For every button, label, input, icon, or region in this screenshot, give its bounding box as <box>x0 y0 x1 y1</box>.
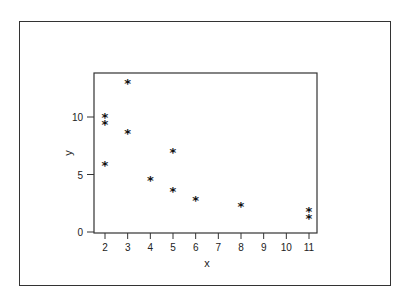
x-tick-label: 3 <box>125 242 131 253</box>
x-tick-label: 10 <box>281 242 293 253</box>
y-tick-label: 10 <box>72 112 84 123</box>
y-axis: 0510 <box>72 112 94 238</box>
y-tick-label: 5 <box>77 170 83 181</box>
data-point-asterisk-icon: * <box>124 126 131 141</box>
data-point-asterisk-icon: * <box>102 117 109 132</box>
x-axis: 234567891011 <box>102 233 314 253</box>
data-point-asterisk-icon: * <box>147 173 154 188</box>
x-tick-label: 4 <box>148 242 154 253</box>
plot-area <box>94 73 317 233</box>
data-point-asterisk-icon: * <box>102 158 109 173</box>
x-tick-label: 11 <box>304 242 315 253</box>
x-tick-label: 9 <box>261 242 267 253</box>
data-point-asterisk-icon: * <box>170 184 177 199</box>
data-point-asterisk-icon: * <box>192 193 199 208</box>
x-tick-label: 5 <box>170 242 176 253</box>
data-point-asterisk-icon: * <box>238 199 245 214</box>
y-axis-label: y <box>62 150 74 156</box>
x-axis-label: x <box>204 257 210 269</box>
data-point-asterisk-icon: * <box>124 76 131 91</box>
scatter-plot: 234567891011 0510 ************ x y <box>0 0 413 303</box>
x-tick-label: 2 <box>102 242 108 253</box>
y-tick-label: 0 <box>77 227 83 238</box>
data-point-asterisk-icon: * <box>170 145 177 160</box>
x-tick-label: 8 <box>238 242 244 253</box>
data-points: ************ <box>102 76 313 227</box>
data-point-asterisk-icon: * <box>306 211 313 226</box>
x-tick-label: 7 <box>216 242 222 253</box>
x-tick-label: 6 <box>193 242 199 253</box>
